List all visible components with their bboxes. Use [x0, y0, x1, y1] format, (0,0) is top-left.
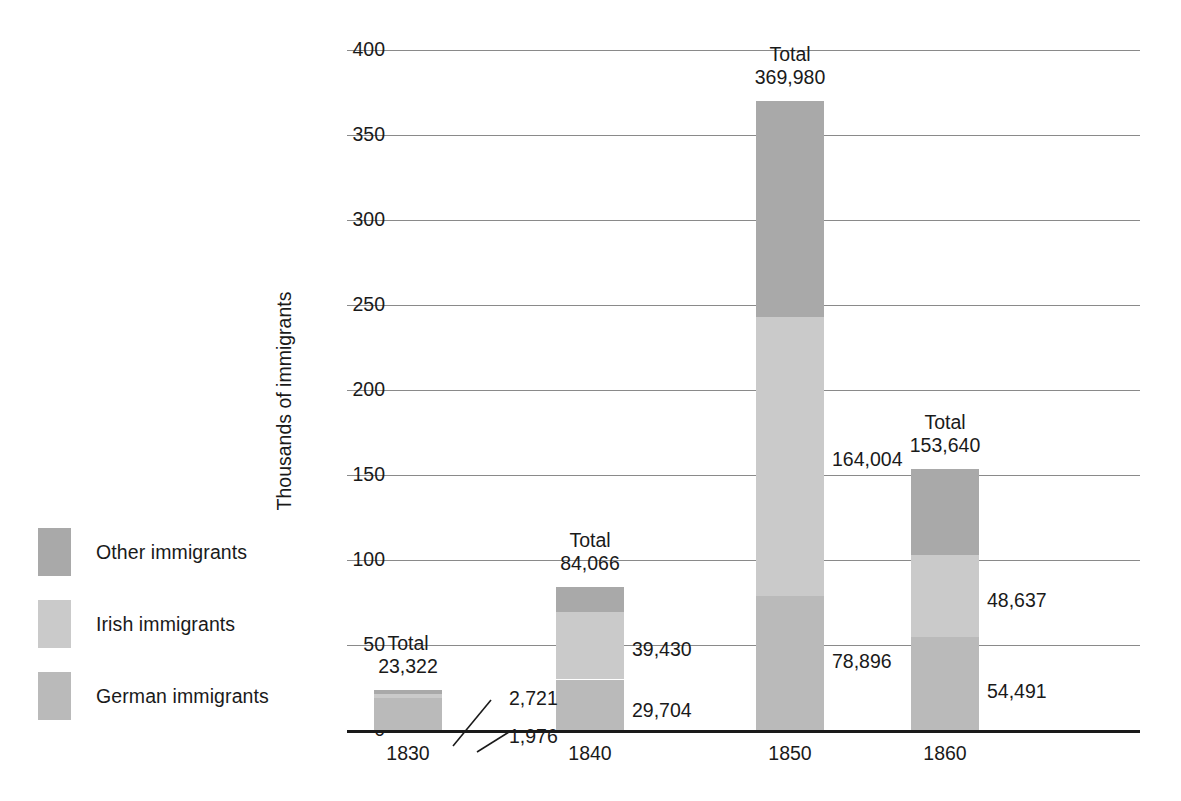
- plot-area: 050100150200250300350400 Total23,322Tota…: [383, 50, 1140, 730]
- total-word-1860: Total: [875, 411, 1015, 434]
- bar-1860[interactable]: [911, 50, 979, 730]
- bar-1850[interactable]: [756, 50, 824, 730]
- value-label-1850-irish: 164,004: [832, 448, 903, 471]
- legend-label-german: German immigrants: [96, 685, 269, 708]
- total-label-1850: Total369,980: [720, 43, 860, 89]
- legend-label-irish: Irish immigrants: [96, 613, 235, 636]
- bar-segment-1840-other[interactable]: [556, 587, 624, 612]
- value-label-1850-german: 78,896: [832, 650, 892, 673]
- x-tick-label-1860: 1860: [885, 742, 1005, 765]
- y-axis-title: Thousands of immigrants: [296, 268, 322, 488]
- legend-swatch-other-icon: [38, 528, 71, 576]
- bar-1830[interactable]: [374, 50, 442, 730]
- legend-label-other: Other immigrants: [96, 541, 247, 564]
- x-tick-label-1850: 1850: [730, 742, 850, 765]
- bar-segment-1860-german[interactable]: [911, 637, 979, 730]
- value-label-1860-german: 54,491: [987, 680, 1047, 703]
- legend-item-irish[interactable]: Irish immigrants: [38, 588, 288, 660]
- total-value-1850: 369,980: [720, 66, 860, 89]
- value-label-1840-irish: 39,430: [632, 638, 692, 661]
- bar-1840[interactable]: [556, 50, 624, 730]
- legend-swatch-irish-icon: [38, 600, 71, 648]
- legend-swatch-german-icon: [38, 672, 71, 720]
- chart-canvas: Other immigrants Irish immigrants German…: [0, 0, 1181, 801]
- bar-segment-1850-german[interactable]: [756, 596, 824, 730]
- bar-segment-1860-other[interactable]: [911, 469, 979, 555]
- total-word-1850: Total: [720, 43, 860, 66]
- total-value-1840: 84,066: [520, 552, 660, 575]
- x-tick-label-1830: 1830: [348, 742, 468, 765]
- value-label-1840-german: 29,704: [632, 699, 692, 722]
- x-tick-label-1840: 1840: [530, 742, 650, 765]
- legend-item-german[interactable]: German immigrants: [38, 660, 288, 732]
- chart-legend: Other immigrants Irish immigrants German…: [38, 516, 288, 732]
- total-label-1840: Total84,066: [520, 529, 660, 575]
- y-axis-title-text: Thousands of immigrants: [273, 291, 296, 511]
- bar-segment-1860-irish[interactable]: [911, 555, 979, 638]
- bar-segment-1850-other[interactable]: [756, 101, 824, 317]
- bar-segment-1850-irish[interactable]: [756, 317, 824, 596]
- value-label-1860-irish: 48,637: [987, 589, 1047, 612]
- x-axis-baseline: [347, 730, 1140, 733]
- total-word-1840: Total: [520, 529, 660, 552]
- legend-item-other[interactable]: Other immigrants: [38, 516, 288, 588]
